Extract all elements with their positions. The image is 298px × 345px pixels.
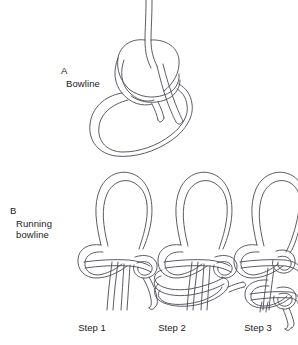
caption-step-1: Step 1	[62, 322, 122, 333]
running-bowline-step1-drawing	[78, 172, 157, 310]
knot-illustration-figure: A Bowline B Running bowline Step 1 Step …	[0, 0, 298, 345]
caption-step-3: Step 3	[228, 322, 288, 333]
panel-a-letter: A	[61, 65, 67, 76]
caption-step-2: Step 2	[142, 322, 202, 333]
panel-b-name-line1: Running	[16, 218, 52, 229]
panel-b-letter: B	[10, 205, 16, 216]
bowline-knot-drawing	[90, 0, 193, 156]
panel-b-name-line2: bowline	[16, 229, 49, 240]
panel-a-name: Bowline	[66, 78, 100, 89]
running-bowline-step2-drawing	[154, 172, 246, 310]
running-bowline-step3-drawing	[234, 172, 298, 330]
knot-line-art	[0, 0, 298, 345]
